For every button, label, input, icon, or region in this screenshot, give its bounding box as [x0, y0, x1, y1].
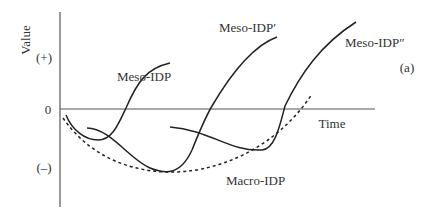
x-axis-label: Time — [319, 116, 346, 131]
y-tick-positive: (+) — [36, 50, 52, 65]
meso-idp-prime-label: Meso-IDP′ — [219, 20, 276, 35]
macro-idp-label: Macro-IDP — [226, 173, 285, 188]
idp-diagram: Value (+) 0 (–) Time (a) Meso-IDP Meso-I… — [0, 0, 436, 218]
panel-label: (a) — [400, 60, 414, 75]
y-tick-negative: (–) — [36, 160, 51, 175]
y-axis-label: Value — [18, 25, 33, 55]
macro-idp-curve — [63, 94, 312, 172]
y-tick-zero: 0 — [45, 102, 52, 117]
meso-idp-label: Meso-IDP — [117, 69, 171, 84]
meso-idp-double-prime-label: Meso-IDP″ — [345, 35, 405, 50]
